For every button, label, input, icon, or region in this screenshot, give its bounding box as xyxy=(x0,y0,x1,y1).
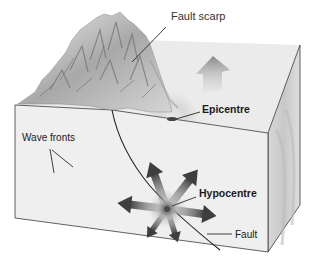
hypocentre-dot xyxy=(164,206,170,212)
label-epicentre: Epicentre xyxy=(202,103,250,115)
label-hypocentre: Hypocentre xyxy=(199,187,257,199)
earthquake-diagram: Fault scarp Epicentre Wave fronts Hypoce… xyxy=(0,0,309,264)
label-wave-fronts: Wave fronts xyxy=(22,132,75,143)
label-fault: Fault xyxy=(235,229,257,240)
epicentre-marker xyxy=(167,117,177,121)
mountain-terrain xyxy=(18,12,178,112)
label-fault-scarp: Fault scarp xyxy=(171,10,225,22)
block-front-face xyxy=(15,105,268,252)
